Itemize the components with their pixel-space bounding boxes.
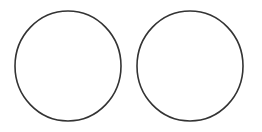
diagram-svg bbox=[0, 0, 262, 132]
diagram-canvas bbox=[0, 0, 262, 132]
right-circle bbox=[137, 11, 243, 121]
left-circle bbox=[15, 11, 121, 121]
